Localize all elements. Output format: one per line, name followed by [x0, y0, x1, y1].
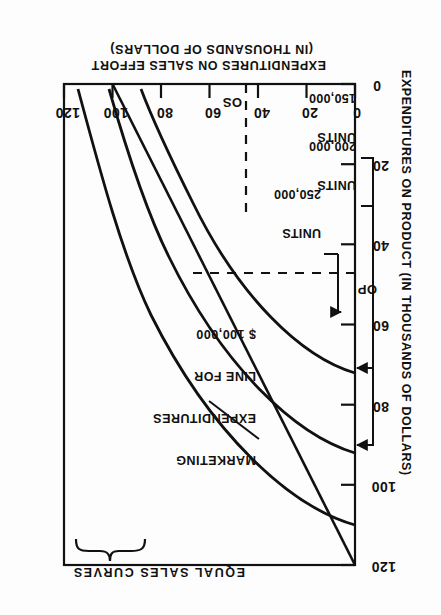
y-tick-label-0: 0	[373, 78, 381, 94]
y-axis-title: EXPENDITURES ON PRODUCT (IN THOUSANDS OF…	[399, 70, 413, 570]
y-tick-label-40: 40	[372, 238, 389, 254]
curve-label-150000-value: 150,000	[309, 91, 356, 104]
x-axis-title-line1: EXPENDITURES ON SALES EFFORT	[91, 58, 326, 72]
x-axis-title-line2: (IN THOUSANDS OF DOLLARS)	[110, 42, 313, 56]
y-tick-label-100: 100	[371, 479, 396, 495]
curve-label-150000-units-text: UNITS	[309, 130, 356, 143]
x-tick-label-120: 120	[55, 105, 80, 121]
y-tick-label-60: 60	[372, 318, 389, 334]
y-tick-label-80: 80	[372, 399, 389, 415]
equal-sales-curves-brace	[76, 539, 145, 561]
y-tick-label-120: 120	[371, 559, 396, 575]
x-tick-label-80: 80	[156, 105, 173, 121]
curve-label-150000-units: UNITS 150,000	[309, 65, 356, 169]
op-label: OP	[357, 282, 377, 297]
os-label: OS	[222, 95, 242, 110]
x-tick-label-60: 60	[204, 105, 221, 121]
equal-sales-curves-caption: EQUAL SALES CURVES	[72, 565, 245, 579]
leader-250000	[338, 254, 341, 312]
figure-page: EXPENDITURES ON SALES EFFORT (IN THOUSAN…	[0, 0, 441, 615]
leader-150000	[357, 158, 373, 368]
curve-label-250000-units-text: UNITS	[274, 226, 321, 239]
x-tick-label-100: 100	[103, 105, 128, 121]
x-tick-label-40: 40	[253, 105, 270, 121]
leader-200000	[357, 206, 373, 445]
y-tick-label-20: 20	[372, 158, 389, 174]
rotated-figure-canvas: EXPENDITURES ON SALES EFFORT (IN THOUSAN…	[0, 0, 441, 615]
curve-label-200000-units-text: UNITS	[309, 178, 356, 191]
